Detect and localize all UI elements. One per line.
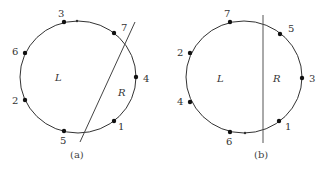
- point-label-3: 3: [58, 8, 64, 19]
- point-3: [62, 20, 66, 24]
- arrow-mark-b: [244, 132, 246, 134]
- point-7: [228, 20, 232, 24]
- points-b: 7523416: [177, 8, 315, 147]
- point-6: [228, 130, 232, 134]
- point-4: [134, 75, 138, 79]
- point-label-4: 4: [143, 73, 149, 84]
- panel-b: 7523416 L R (b): [177, 8, 315, 160]
- region-right-label-b: R: [272, 73, 281, 84]
- arrow-mark-a: [76, 20, 78, 22]
- panel-a: 3764215 L R (a): [12, 8, 149, 160]
- point-label-7: 7: [121, 22, 127, 33]
- points-a: 3764215: [12, 8, 149, 146]
- point-2: [188, 51, 192, 55]
- point-1: [277, 119, 281, 123]
- point-label-5: 5: [288, 23, 294, 34]
- point-label-1: 1: [118, 121, 124, 132]
- point-1: [112, 119, 116, 123]
- point-label-6: 6: [12, 46, 18, 57]
- point-7: [112, 31, 116, 35]
- circle-b: [186, 21, 302, 133]
- point-label-4: 4: [177, 96, 183, 107]
- point-label-6: 6: [226, 136, 232, 147]
- point-4: [188, 100, 192, 104]
- point-label-3: 3: [309, 73, 315, 84]
- region-left-label-a: L: [54, 72, 62, 83]
- caption-a: (a): [70, 149, 84, 160]
- caption-b: (b): [254, 149, 268, 160]
- diagram-canvas: 3764215 L R (a) 7523416 L R (b): [0, 0, 325, 169]
- point-label-1: 1: [285, 121, 291, 132]
- point-label-2: 2: [12, 95, 18, 106]
- circle-a: [20, 21, 136, 133]
- point-label-2: 2: [177, 47, 183, 58]
- point-label-5: 5: [60, 135, 66, 146]
- point-3: [300, 76, 304, 80]
- cut-line-a: [80, 22, 135, 142]
- point-5: [278, 32, 282, 36]
- point-6: [23, 51, 27, 55]
- point-5: [62, 129, 66, 133]
- point-2: [23, 98, 27, 102]
- point-label-7: 7: [224, 8, 230, 19]
- region-right-label-a: R: [117, 87, 126, 98]
- region-left-label-b: L: [216, 73, 224, 84]
